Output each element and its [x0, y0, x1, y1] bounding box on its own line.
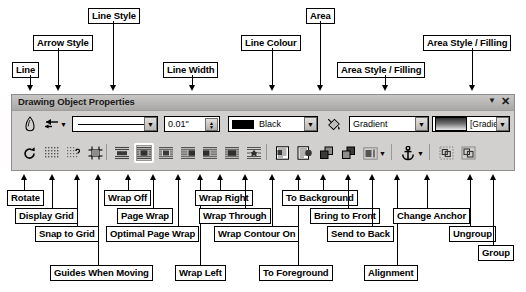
leader-send-to-back	[372, 180, 373, 227]
leader-area	[320, 21, 321, 86]
callout-group: Group	[478, 245, 514, 261]
line-colour-value: Black	[254, 119, 281, 129]
area-style-value: Gradient	[350, 119, 388, 129]
callout-display-grid: Display Grid	[15, 208, 78, 224]
leader-wrap-through	[245, 180, 246, 209]
toolbar-titlebar[interactable]: Drawing Object Properties ▼ ✕	[12, 95, 514, 111]
close-icon[interactable]: ✕	[501, 95, 510, 107]
callout-ungroup: Ungroup	[449, 226, 496, 242]
arrowhead-line	[27, 85, 33, 91]
rotate-icon[interactable]	[19, 143, 39, 163]
bring-front-icon[interactable]	[316, 143, 336, 163]
toolbar-title: Drawing Object Properties	[18, 96, 135, 107]
leader-arrow-style	[58, 48, 59, 86]
callout-optimal-page-wrap: Optimal Page Wrap	[106, 226, 199, 242]
callout-line-width: Line Width	[163, 62, 218, 78]
callout-area-style-filling-1: Area Style / Filling	[337, 62, 425, 78]
callout-bring-to-front: Bring to Front	[310, 208, 380, 224]
anchor-icon[interactable]	[398, 143, 418, 163]
wrap-left-icon[interactable]	[178, 143, 198, 163]
arrowhead-arrow-style	[55, 85, 61, 91]
group-icon[interactable]	[458, 143, 478, 163]
area-style-combo[interactable]: Gradient ▼	[349, 116, 429, 132]
arrowhead-area	[317, 85, 323, 91]
callout-alignment: Alignment	[364, 265, 418, 281]
leader-wrap-contour-on	[272, 180, 273, 227]
alignment-icon[interactable]	[360, 143, 380, 163]
to-background-icon[interactable]	[294, 143, 314, 163]
leader-group	[493, 180, 494, 246]
callout-guides-when-moving: Guides When Moving	[50, 265, 153, 281]
toolbar-menu-icon[interactable]: ▼	[488, 95, 496, 107]
to-foreground-icon[interactable]	[272, 143, 292, 163]
separator	[106, 144, 107, 160]
line-width-value: 0.01"	[165, 119, 189, 129]
arrowhead-area-style-filling-2	[469, 85, 475, 91]
callout-wrap-contour-on: Wrap Contour On	[214, 226, 299, 242]
line-width-stepper[interactable]: ▲▼	[205, 118, 218, 131]
callout-send-to-back: Send to Back	[327, 226, 394, 242]
arrowhead-line-colour	[269, 85, 275, 91]
leader-display-grid	[52, 180, 53, 209]
separator	[391, 144, 392, 160]
toolbar-row-2: ▼ ▼	[12, 140, 514, 171]
leader-page-wrap	[153, 180, 154, 209]
line-style-chevron-down-icon[interactable]: ▼	[144, 117, 157, 131]
arrowhead-line-style	[110, 85, 116, 91]
arrow-style-dropdown-chevron-down-icon[interactable]: ▼	[59, 114, 68, 134]
area-style-chevron-down-icon[interactable]: ▼	[415, 117, 428, 131]
page-wrap-icon[interactable]	[134, 143, 154, 163]
alignment-dropdown-chevron-down-icon[interactable]: ▼	[378, 143, 387, 163]
gradient-preview-swatch	[435, 117, 467, 131]
toolbar-row-1: ▼ ▼ 0.01" ▲▼ Black ▼	[12, 111, 514, 140]
leader-line-style	[113, 21, 114, 86]
arrowhead-area-style-filling-1	[382, 85, 388, 91]
wrap-through-icon[interactable]	[222, 143, 242, 163]
leader-snap-to-grid	[77, 180, 78, 227]
callout-line-colour: Line Colour	[241, 35, 301, 51]
snap-grid-icon[interactable]	[63, 143, 83, 163]
guides-icon[interactable]	[85, 143, 105, 163]
callout-wrap-off: Wrap Off	[104, 190, 151, 206]
arrow-style-icon[interactable]	[41, 114, 61, 134]
wrap-off-icon[interactable]	[112, 143, 132, 163]
callout-page-wrap: Page Wrap	[117, 208, 173, 224]
callout-area-style-filling-2: Area Style / Filling	[423, 35, 511, 51]
callout-to-background: To Background	[282, 190, 358, 206]
ungroup-icon[interactable]	[436, 143, 456, 163]
callout-snap-to-grid: Snap to Grid	[35, 226, 99, 242]
callout-wrap-through: Wrap Through	[199, 208, 271, 224]
line-colour-combo[interactable]: Black ▼	[228, 116, 318, 132]
diagram-canvas: Line Arrow Style Line Style Line Width L…	[0, 0, 526, 292]
callout-line: Line	[12, 62, 39, 78]
line-style-preview	[78, 124, 152, 125]
leader-line-colour	[272, 48, 273, 86]
callout-arrow-style: Arrow Style	[33, 35, 93, 51]
drawing-object-properties-toolbar: Drawing Object Properties ▼ ✕	[11, 94, 515, 171]
send-back-icon[interactable]	[338, 143, 358, 163]
separator	[429, 144, 430, 160]
line-colour-swatch	[232, 120, 254, 129]
line-width-field[interactable]: 0.01" ▲▼	[164, 116, 220, 132]
leader-area-style-filling-2	[472, 48, 473, 86]
area-filling-chevron-down-icon[interactable]: ▼	[496, 117, 509, 131]
line-colour-chevron-down-icon[interactable]: ▼	[304, 117, 317, 131]
leader-change-anchor	[427, 180, 428, 209]
wrap-contour-icon[interactable]	[244, 143, 264, 163]
leader-optimal-page-wrap	[178, 180, 179, 227]
optimal-wrap-icon[interactable]	[156, 143, 176, 163]
change-anchor-dropdown-chevron-down-icon[interactable]: ▼	[416, 143, 425, 163]
area-fill-icon[interactable]	[324, 114, 344, 134]
leader-bring-to-front	[348, 180, 349, 209]
wrap-right-icon[interactable]	[200, 143, 220, 163]
line-icon[interactable]	[20, 114, 40, 134]
arrowhead-line-width	[189, 85, 195, 91]
callout-rotate: Rotate	[7, 190, 44, 206]
grid-icon[interactable]	[41, 143, 61, 163]
callout-change-anchor: Change Anchor	[393, 208, 470, 224]
callout-wrap-left: Wrap Left	[175, 265, 226, 281]
line-style-combo[interactable]: ▼	[72, 116, 158, 132]
leader-ungroup	[470, 180, 471, 227]
area-filling-combo[interactable]: [Gradient 7 ▼	[432, 116, 510, 132]
leader-guides-when-moving	[98, 180, 99, 266]
